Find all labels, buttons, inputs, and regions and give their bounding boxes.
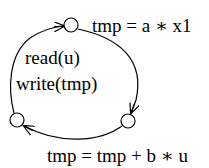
edge-bottom-left-to-top — [11, 26, 64, 113]
state-node-bottom-left — [10, 113, 24, 127]
state-node-bottom-right — [121, 114, 135, 128]
edge-top-to-bottom-right — [78, 29, 138, 113]
state-cycle-diagram: tmp = a ∗ x1 read(u) write(tmp) tmp = tm… — [0, 0, 209, 168]
top-action-label: tmp = a ∗ x1 — [92, 15, 192, 36]
bottom-action-label: tmp = tmp + b ∗ u — [47, 145, 188, 166]
state-node-top — [64, 18, 78, 32]
edge-bottom-right-to-bottom-left — [24, 126, 122, 139]
read-label: read(u) — [25, 47, 80, 69]
write-label: write(tmp) — [16, 73, 97, 95]
